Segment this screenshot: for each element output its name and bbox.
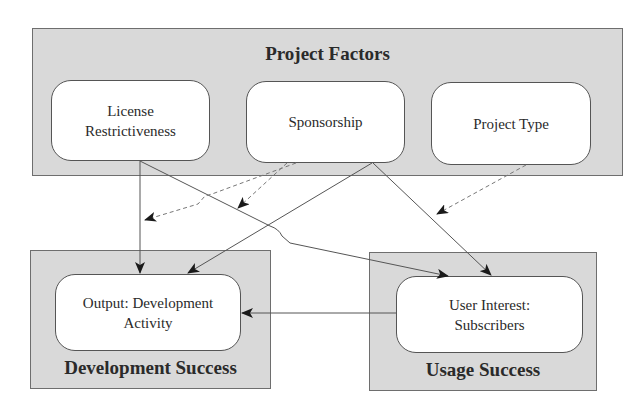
node-user-interest-line1: User Interest: <box>449 295 530 315</box>
node-output-line2: Activity <box>123 313 172 333</box>
node-sponsorship: Sponsorship <box>246 81 405 163</box>
node-user-interest-line2: Subscribers <box>455 315 525 335</box>
node-user-interest-subscribers: User Interest: Subscribers <box>396 276 583 353</box>
group-title-project-factors: Project Factors <box>33 43 622 65</box>
node-license-restrictiveness: License Restrictiveness <box>51 80 210 161</box>
node-project-type: Project Type <box>431 82 591 165</box>
node-license-line2: Restrictiveness <box>85 121 176 141</box>
group-title-usage-success: Usage Success <box>370 359 596 381</box>
node-sponsorship-label: Sponsorship <box>288 112 362 132</box>
group-title-development-success: Development Success <box>31 357 270 379</box>
node-license-line1: License <box>107 101 154 121</box>
node-output-development-activity: Output: Development Activity <box>55 274 241 351</box>
node-output-line1: Output: Development <box>83 293 213 313</box>
node-project-type-label: Project Type <box>473 114 549 134</box>
